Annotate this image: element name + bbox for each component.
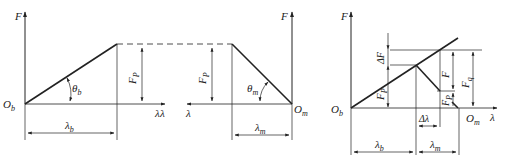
theta-b-label: θb	[72, 82, 81, 97]
right-fp-label: FP	[374, 88, 389, 101]
middle-fp-label: FP	[196, 72, 211, 85]
left-fp-label: FP	[126, 72, 141, 85]
delta-f-label: ΔF	[375, 51, 386, 65]
bolt-diagram	[25, 12, 232, 140]
delta-lambda-label: Δλ	[418, 113, 430, 124]
force-deformation-diagrams: F λ Ob θb λb FP F λ λ Om θm λm FP	[0, 0, 507, 165]
middle-f-axis-label: F	[280, 10, 288, 22]
lambda-m-label: λm	[254, 121, 266, 136]
left-f-axis-label: F	[14, 10, 22, 22]
right-origin-b-label: Ob	[331, 103, 343, 118]
left-origin-label: Ob	[3, 98, 15, 113]
left-lambda-axis-label-2: λ	[159, 107, 165, 119]
theta-m-label: θm	[247, 82, 258, 97]
lambda-b-label: λb	[64, 119, 74, 134]
fq-label: Fq	[459, 77, 474, 89]
right-lambda-b-label: λb	[374, 138, 384, 153]
middle-lambda-axis-label: λ	[185, 107, 191, 119]
f-label: F	[439, 71, 451, 79]
fp-residual-label: FP	[440, 95, 454, 107]
combined-diagram	[351, 12, 497, 155]
right-origin-m-label: Om	[466, 112, 480, 127]
right-lambda-m-label: λm	[429, 138, 441, 153]
middle-origin-label: Om	[294, 103, 308, 118]
right-lambda-axis-label: λ	[489, 111, 495, 123]
right-f-axis-label: F	[340, 10, 348, 22]
diagram-canvas: F λ Ob θb λb FP F λ λ Om θm λm FP	[0, 0, 507, 165]
